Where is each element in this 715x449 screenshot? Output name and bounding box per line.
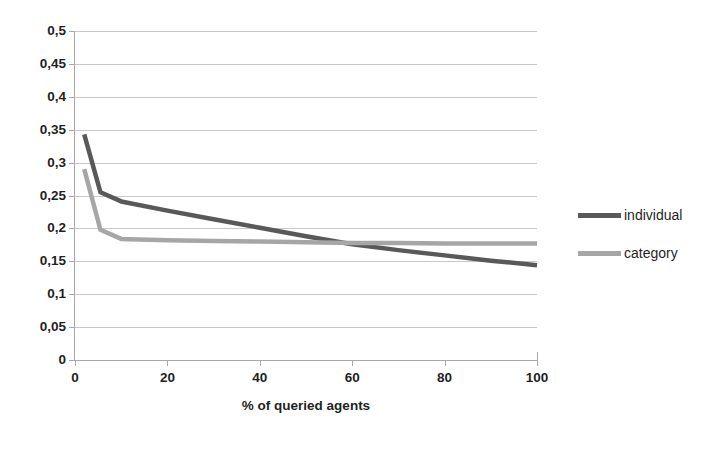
- legend-label-category: category: [624, 246, 678, 260]
- legend-label-individual: individual: [624, 208, 682, 222]
- legend-swatch-category: [578, 251, 621, 256]
- legend-swatch-individual: [578, 213, 621, 218]
- legend-item-category: category: [578, 234, 710, 272]
- line-chart: 00,050,10,150,20,250,30,350,40,450,5 020…: [0, 0, 715, 449]
- legend-item-individual: individual: [578, 196, 710, 234]
- legend: individual category: [578, 196, 710, 272]
